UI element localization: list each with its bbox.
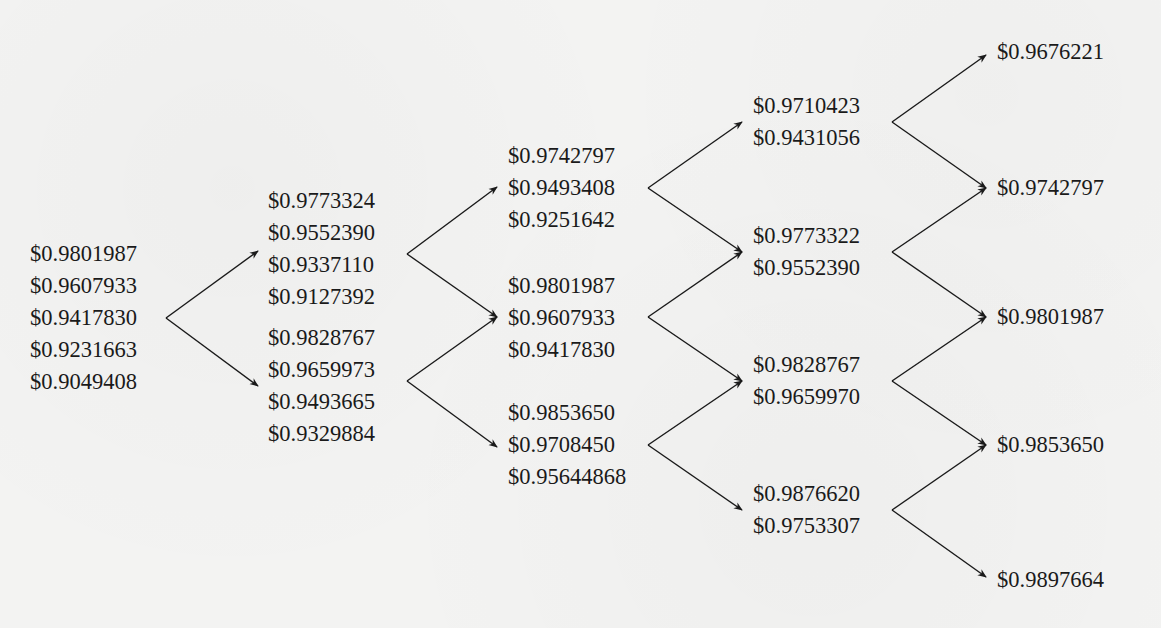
arrow-up-icon: [407, 187, 497, 254]
node-value: $0.9552390: [268, 217, 375, 249]
node-value: $0.9853650: [508, 397, 626, 429]
arrow-down-icon: [648, 317, 742, 381]
arrow-down-icon: [892, 252, 986, 317]
tree-node-step4-3: $0.9853650: [997, 429, 1104, 461]
tree-node-step2-uu: $0.9742797 $0.9493408 $0.9251642: [508, 140, 615, 236]
node-value: $0.9876620: [753, 478, 860, 510]
node-value: $0.9231663: [30, 334, 137, 366]
arrow-down-icon: [892, 122, 986, 188]
node-value: $0.9708450: [508, 429, 626, 461]
node-value: $0.9659973: [268, 354, 375, 386]
node-value: $0.9773322: [753, 220, 860, 252]
arrow-down-icon: [648, 445, 742, 510]
node-value: $0.9801987: [508, 270, 615, 302]
arrow-up-icon: [892, 317, 986, 381]
node-value: $0.9753307: [753, 510, 860, 542]
node-value: $0.9417830: [508, 334, 615, 366]
arrow-up-icon: [648, 122, 742, 188]
arrow-down-icon: [892, 510, 986, 577]
arrow-down-icon: [407, 381, 497, 447]
arrow-up-icon: [892, 55, 986, 122]
node-value: $0.9049408: [30, 366, 137, 398]
node-value: $0.9853650: [997, 429, 1104, 461]
node-value: $0.9417830: [30, 302, 137, 334]
node-value: $0.9801987: [997, 301, 1104, 333]
node-value: $0.9659970: [753, 381, 860, 413]
node-value: $0.9337110: [268, 249, 375, 281]
arrow-up-icon: [648, 381, 742, 445]
node-value: $0.9742797: [997, 172, 1104, 204]
node-value: $0.9828767: [753, 349, 860, 381]
node-value: $0.9607933: [30, 270, 137, 302]
tree-node-step3-1: $0.9773322 $0.9552390: [753, 220, 860, 284]
node-value: $0.9742797: [508, 140, 615, 172]
node-value: $0.9773324: [268, 185, 375, 217]
node-value: $0.9493665: [268, 386, 375, 418]
arrow-up-icon: [648, 252, 742, 317]
tree-node-step4-4: $0.9897664: [997, 564, 1104, 596]
arrow-down-icon: [407, 254, 497, 317]
tree-node-step2-ud: $0.9801987 $0.9607933 $0.9417830: [508, 270, 615, 366]
arrow-up-icon: [407, 317, 497, 381]
node-value: $0.95644868: [508, 461, 626, 493]
node-value: $0.9127392: [268, 281, 375, 313]
arrow-up-icon: [166, 251, 258, 318]
arrow-down-icon: [648, 188, 742, 252]
tree-node-step1-down: $0.9828767 $0.9659973 $0.9493665 $0.9329…: [268, 322, 375, 450]
node-value: $0.9801987: [30, 238, 137, 270]
tree-node-step4-2: $0.9801987: [997, 301, 1104, 333]
tree-node-step3-0: $0.9710423 $0.9431056: [753, 90, 860, 154]
tree-node-step1-up: $0.9773324 $0.9552390 $0.9337110 $0.9127…: [268, 185, 375, 313]
node-value: $0.9710423: [753, 90, 860, 122]
node-value: $0.9493408: [508, 172, 615, 204]
tree-node-step3-2: $0.9828767 $0.9659970: [753, 349, 860, 413]
tree-node-step4-0: $0.9676221: [997, 36, 1104, 68]
node-value: $0.9329884: [268, 418, 375, 450]
arrow-up-icon: [892, 445, 986, 510]
node-value: $0.9607933: [508, 302, 615, 334]
node-value: $0.9251642: [508, 204, 615, 236]
arrow-up-icon: [892, 188, 986, 252]
tree-node-step2-dd: $0.9853650 $0.9708450 $0.95644868: [508, 397, 626, 493]
node-value: $0.9828767: [268, 322, 375, 354]
tree-node-step3-3: $0.9876620 $0.9753307: [753, 478, 860, 542]
arrow-down-icon: [892, 381, 986, 445]
node-value: $0.9431056: [753, 122, 860, 154]
node-value: $0.9676221: [997, 36, 1104, 68]
tree-node-step0: $0.9801987 $0.9607933 $0.9417830 $0.9231…: [30, 238, 137, 398]
node-value: $0.9897664: [997, 564, 1104, 596]
tree-node-step4-1: $0.9742797: [997, 172, 1104, 204]
node-value: $0.9552390: [753, 252, 860, 284]
arrow-down-icon: [166, 318, 258, 386]
